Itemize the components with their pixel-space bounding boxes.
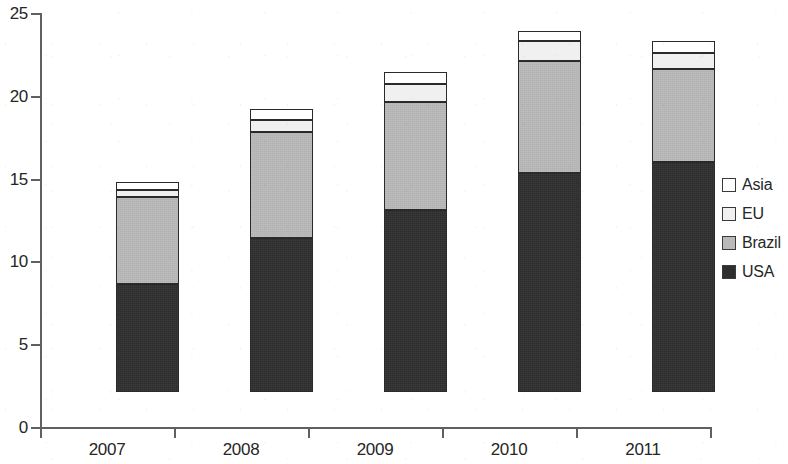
bar-segment-usa — [518, 173, 581, 392]
x-axis-tick-mark — [308, 429, 310, 438]
legend-swatch-icon — [722, 178, 736, 192]
bar-segment-eu — [518, 41, 581, 61]
bar-segment-brazil — [116, 197, 179, 285]
bar-stack — [652, 0, 715, 392]
y-axis-tick-label: 20 — [2, 88, 28, 105]
bar-segment-eu — [250, 120, 313, 132]
bar-segment-brazil — [652, 69, 715, 162]
x-axis-tick-label: 2008 — [174, 440, 308, 459]
x-axis-tick-mark — [40, 429, 42, 438]
y-axis-tick-mark — [31, 13, 40, 15]
legend-label: USA — [742, 264, 774, 280]
y-axis-tick-label: 10 — [2, 253, 28, 270]
legend-item-usa[interactable]: USA — [722, 257, 788, 286]
bar-segment-asia — [518, 31, 581, 41]
x-axis-tick-label: 2007 — [40, 440, 174, 459]
legend-label: Brazil — [742, 235, 781, 251]
x-axis-tick-mark — [174, 429, 176, 438]
y-axis-tick-label: 0 — [2, 419, 28, 436]
legend-swatch-icon — [722, 207, 736, 221]
y-axis-tick-labels: 2520151050 — [0, 0, 28, 464]
bar-segment-asia — [652, 41, 715, 53]
x-axis-tick-label: 2010 — [442, 440, 576, 459]
bar-segment-asia — [250, 109, 313, 121]
bar-segment-eu — [384, 84, 447, 102]
bar-stack — [384, 0, 447, 392]
x-axis-tick-label: 2011 — [576, 440, 710, 459]
bar-segment-usa — [116, 284, 179, 392]
x-axis-tick-mark — [576, 429, 578, 438]
y-axis-tick-label: 25 — [2, 5, 28, 22]
bar-segment-usa — [652, 162, 715, 392]
x-axis-tick-mark — [710, 429, 712, 438]
chart-legend: AsiaEUBrazilUSA — [722, 170, 788, 286]
bar-segment-brazil — [518, 61, 581, 174]
bar-segment-usa — [384, 210, 447, 392]
y-axis-tick-label: 5 — [2, 336, 28, 353]
y-axis-tick-label: 15 — [2, 171, 28, 188]
bar-segment-eu — [652, 53, 715, 70]
y-axis-tick-mark — [31, 344, 40, 346]
legend-swatch-icon — [722, 265, 736, 279]
bar-segment-asia — [116, 182, 179, 190]
bar-segment-usa — [250, 238, 313, 392]
legend-label: Asia — [742, 177, 772, 193]
legend-swatch-icon — [722, 236, 736, 250]
bar-segment-brazil — [384, 102, 447, 210]
y-axis-tick-mark — [31, 261, 40, 263]
y-axis-tick-mark — [31, 427, 40, 429]
plot-area — [40, 14, 710, 428]
x-axis-tick-label: 2009 — [308, 440, 442, 459]
bar-stack — [518, 0, 581, 392]
bar-segment-asia — [384, 72, 447, 84]
y-axis-tick-mark — [31, 179, 40, 181]
bar-segment-brazil — [250, 132, 313, 238]
bar-stack — [250, 0, 313, 392]
y-axis-tick-mark — [31, 96, 40, 98]
legend-item-eu[interactable]: EU — [722, 199, 788, 228]
legend-item-asia[interactable]: Asia — [722, 170, 788, 199]
stacked-bar-chart: 2520151050 20072008200920102011 AsiaEUBr… — [0, 0, 788, 464]
bar-segment-eu — [116, 190, 179, 197]
legend-label: EU — [742, 206, 764, 222]
legend-item-brazil[interactable]: Brazil — [722, 228, 788, 257]
x-axis-tick-mark — [442, 429, 444, 438]
bar-stack — [116, 0, 179, 392]
